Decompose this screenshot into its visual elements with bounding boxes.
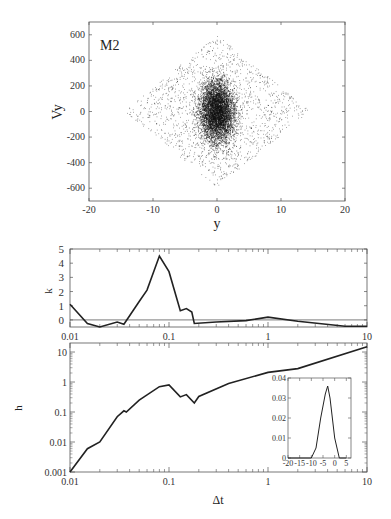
svg-text:0: 0 [59, 314, 65, 326]
svg-text:600: 600 [70, 29, 85, 40]
svg-text:0.02: 0.02 [272, 414, 286, 423]
svg-text:-10: -10 [146, 204, 159, 215]
svg-text:-15: -15 [294, 459, 305, 468]
svg-text:0: 0 [333, 459, 337, 468]
svg-text:1: 1 [59, 300, 65, 312]
svg-text:0.03: 0.03 [272, 394, 286, 403]
svg-text:2: 2 [59, 286, 65, 298]
svg-text:10: 10 [57, 347, 67, 358]
svg-text:10: 10 [362, 476, 372, 487]
svg-text:0.1: 0.1 [163, 331, 176, 342]
svg-text:200: 200 [70, 80, 85, 91]
svg-text:400: 400 [70, 54, 85, 65]
svg-text:0.01: 0.01 [50, 437, 68, 448]
svg-text:5: 5 [59, 243, 65, 255]
svg-text:0.01: 0.01 [61, 331, 79, 342]
svg-text:0: 0 [282, 454, 286, 463]
h-xlabel: Δt [212, 493, 224, 507]
svg-text:10: 10 [276, 204, 286, 215]
svg-text:10: 10 [362, 331, 372, 342]
k-ylabel: k [42, 288, 54, 294]
figure: -20-1001020-600-400-2000200400600 M2 y V… [0, 0, 391, 519]
k-frame [70, 249, 367, 327]
svg-text:0: 0 [215, 204, 220, 215]
svg-text:0.1: 0.1 [55, 407, 68, 418]
svg-text:3: 3 [59, 271, 65, 283]
k-curve [70, 256, 367, 327]
svg-text:1: 1 [266, 331, 271, 342]
svg-text:0.1: 0.1 [163, 476, 176, 487]
svg-text:1: 1 [62, 377, 67, 388]
svg-text:0.01: 0.01 [272, 434, 286, 443]
inset-frame [288, 378, 351, 458]
svg-text:-600: -600 [67, 182, 85, 193]
scatter-panel: -20-1001020-600-400-2000200400600 M2 y V… [50, 22, 350, 231]
panel-annotation: M2 [100, 38, 119, 53]
svg-text:-20: -20 [82, 204, 95, 215]
svg-text:-5: -5 [320, 459, 327, 468]
svg-text:0.04: 0.04 [272, 374, 286, 383]
svg-text:-200: -200 [67, 131, 85, 142]
scatter-xlabel: y [214, 216, 221, 231]
svg-text:4: 4 [59, 257, 65, 269]
scatter-points [127, 37, 308, 186]
inset-plot: -20-15-10-50500.010.020.030.04 [272, 374, 351, 468]
svg-text:1: 1 [266, 476, 271, 487]
h-ylabel: h [12, 405, 24, 411]
svg-text:-10: -10 [306, 459, 317, 468]
h-panel: 0.0010.010.11100.010.1110 h Δt -20-15-10… [12, 343, 372, 507]
svg-text:20: 20 [340, 204, 350, 215]
scatter-ylabel: Vy [50, 104, 65, 120]
k-panel: 0123450.010.1110 k [42, 243, 372, 342]
svg-text:0.01: 0.01 [61, 476, 79, 487]
svg-text:5: 5 [344, 459, 348, 468]
svg-text:0: 0 [80, 106, 85, 117]
svg-text:-400: -400 [67, 157, 85, 168]
